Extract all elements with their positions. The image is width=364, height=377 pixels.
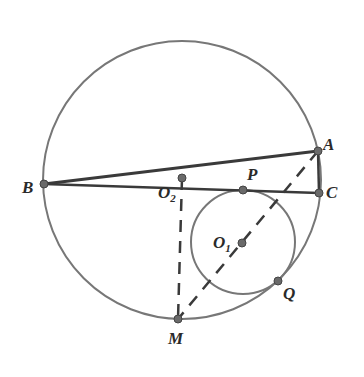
- point-m: [174, 315, 182, 323]
- point-p: [239, 186, 247, 194]
- point-q: [274, 277, 282, 285]
- geometry-figure: ABCPO1O2QM: [0, 0, 364, 377]
- label-o1: O1: [213, 233, 231, 254]
- point-o1: [238, 239, 246, 247]
- segment-AC: [318, 151, 319, 193]
- points-group: [40, 147, 323, 323]
- label-c: C: [326, 183, 338, 202]
- label-q: Q: [283, 284, 295, 303]
- figure-canvas: ABCPO1O2QM: [0, 0, 364, 377]
- point-c: [315, 189, 323, 197]
- segment-O2M-dashed: [178, 178, 182, 319]
- point-o2: [178, 174, 186, 182]
- label-a: A: [322, 135, 334, 154]
- point-a: [314, 147, 322, 155]
- label-o2: O2: [158, 183, 176, 204]
- label-m: M: [167, 329, 184, 348]
- label-p: P: [246, 165, 258, 184]
- point-b: [40, 180, 48, 188]
- label-b: B: [21, 178, 33, 197]
